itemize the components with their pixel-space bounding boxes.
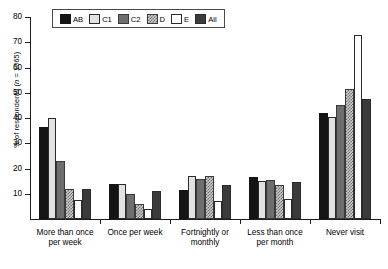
bar-All (152, 191, 161, 219)
bar-D (345, 89, 354, 219)
legend-label: D (160, 13, 165, 24)
chart-legend: ABC1C2DEAll (52, 9, 225, 28)
bar-AB (109, 184, 118, 219)
bar-AB (319, 113, 328, 219)
x-axis-category-label: Never visit (302, 228, 388, 238)
legend-item-C1[interactable]: C1 (89, 13, 112, 24)
legend-label: All (208, 13, 216, 24)
legend-item-All[interactable]: All (195, 13, 216, 24)
bar-C1 (328, 117, 337, 219)
legend-item-D[interactable]: D (147, 13, 165, 24)
bar-AB (39, 127, 48, 219)
bar-group (310, 17, 380, 219)
y-axis-title: % of respondents (n = 1065) (13, 25, 20, 175)
y-axis-tick-label: 50 (0, 89, 22, 97)
bar-All (222, 185, 231, 219)
bar-C2 (266, 180, 275, 219)
y-axis-tick-label: 30 (0, 139, 22, 147)
bar-D (135, 204, 144, 219)
bar-C2 (336, 105, 345, 219)
bar-All (82, 189, 91, 219)
bar-C1 (118, 184, 127, 219)
bar-chart: % of respondents (n = 1065) 102030405060… (0, 0, 388, 269)
bar-group (30, 17, 100, 219)
legend-swatch-icon (147, 14, 158, 24)
bar-group (100, 17, 170, 219)
legend-label: AB (73, 13, 83, 24)
legend-swatch-icon (118, 14, 129, 24)
legend-item-E[interactable]: E (171, 13, 189, 24)
legend-label: C1 (102, 13, 112, 24)
bar-C2 (56, 161, 65, 219)
bar-E (74, 200, 83, 219)
bar-E (144, 209, 153, 219)
y-axis-tick-label: 10 (0, 190, 22, 198)
bar-All (292, 182, 301, 219)
bar-C2 (126, 194, 135, 219)
bar-D (65, 189, 74, 219)
bar-AB (179, 190, 188, 219)
bar-E (214, 201, 223, 219)
x-axis-tick (310, 220, 311, 224)
bar-group (170, 17, 240, 219)
y-axis-tick-label: 20 (0, 165, 22, 173)
bar-C2 (196, 179, 205, 219)
legend-swatch-icon (195, 14, 206, 24)
y-axis-tick-label: 60 (0, 64, 22, 72)
bar-group (240, 17, 310, 219)
bar-E (354, 35, 363, 219)
bar-C1 (48, 118, 57, 219)
y-axis-tick-label: 80 (0, 13, 22, 21)
bar-All (362, 99, 371, 219)
legend-item-C2[interactable]: C2 (118, 13, 141, 24)
x-axis-tick (380, 220, 381, 224)
x-axis-line (30, 219, 381, 220)
bar-D (275, 185, 284, 219)
y-axis-tick-label: 40 (0, 114, 22, 122)
x-axis-tick (240, 220, 241, 224)
bar-E (284, 199, 293, 219)
legend-swatch-icon (89, 14, 100, 24)
bar-D (205, 176, 214, 219)
legend-label: C2 (131, 13, 141, 24)
bar-AB (249, 177, 258, 219)
legend-swatch-icon (171, 14, 182, 24)
legend-label: E (184, 13, 189, 24)
legend-item-AB[interactable]: AB (60, 13, 83, 24)
y-axis-tick-label: 70 (0, 38, 22, 46)
legend-swatch-icon (60, 14, 71, 24)
x-axis-tick (100, 220, 101, 224)
y-axis-title-n: n (12, 80, 21, 84)
bar-C1 (188, 176, 197, 219)
plot-area (30, 17, 380, 219)
x-axis-tick (170, 220, 171, 224)
bar-C1 (258, 181, 267, 219)
